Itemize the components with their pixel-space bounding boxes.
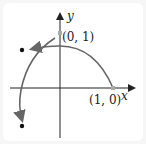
point-label-0-1: (0, 1) (62, 30, 94, 44)
arc-curve-2 (20, 38, 55, 120)
dot-lower (20, 124, 24, 128)
x-axis-label: x (121, 89, 128, 103)
y-axis-label: y (66, 9, 74, 23)
rotation-diagram: y x (0, 1) (1, 0) (0, 0, 146, 144)
diagram-card: y x (0, 1) (1, 0) (0, 0, 146, 144)
point-marker-1-0 (111, 86, 115, 90)
dot-upper (20, 48, 24, 52)
point-label-1-0: (1, 0) (89, 93, 121, 107)
arc-curve-1 (32, 46, 113, 88)
